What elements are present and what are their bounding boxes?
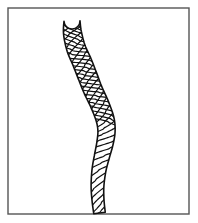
rope-figure-container: Braided rope illustration Line drawing o… — [0, 0, 198, 223]
rope-illustration-svg — [0, 0, 198, 223]
